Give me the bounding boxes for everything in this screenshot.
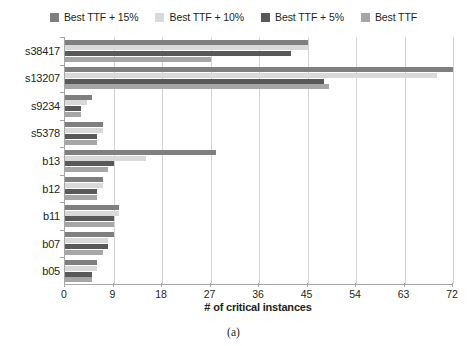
bar [65,128,103,133]
legend-label: Best TTF + 15% [64,12,139,23]
bar [65,238,108,243]
bar [65,189,97,194]
legend-swatch-icon [261,13,270,22]
y-axis-label-b07: b07 [0,238,60,250]
bar-group-s9234 [65,92,452,120]
bar-group-b12 [65,175,452,203]
bar [65,277,92,282]
gridline [453,37,454,284]
x-axis-tick [113,283,114,287]
bar [65,205,119,210]
bar [65,100,87,105]
bar [65,161,114,166]
legend-label: Best TTF + 10% [169,12,244,23]
x-axis-label-0: 0 [61,288,67,300]
legend-entry-1: Best TTF + 10% [155,12,244,23]
x-axis-tick [210,283,211,287]
x-axis-label-63: 63 [398,288,410,300]
bar [65,45,308,50]
y-axis-label-b13: b13 [0,155,60,167]
legend-swatch-icon [361,13,370,22]
bar [65,79,324,84]
y-axis-label-s5378: s5378 [0,127,60,139]
bar [65,183,103,188]
x-axis-tick [307,283,308,287]
y-axis-label-s9234: s9234 [0,100,60,112]
bar [65,40,308,45]
legend-label: Best TTF + 5% [275,12,344,23]
bar [65,112,81,117]
x-axis-label-72: 72 [446,288,458,300]
bar [65,272,92,277]
bar [65,216,114,221]
x-axis-label-54: 54 [349,288,361,300]
bar [65,222,114,227]
x-axis-tick [161,283,162,287]
bar-group-b13 [65,147,452,175]
x-axis-tick [452,283,453,287]
bar [65,250,103,255]
bar [65,156,146,161]
y-axis-label-b11: b11 [0,210,60,222]
bar-group-b11 [65,202,452,230]
bar [65,106,81,111]
x-axis-tick [258,283,259,287]
bars-container [65,37,452,284]
bar-group-s38417 [65,37,452,65]
legend-entry-0: Best TTF + 15% [50,12,139,23]
bar [65,95,92,100]
plot-area [64,37,452,285]
figure-panel: Best TTF + 15%Best TTF + 10%Best TTF + 5… [0,0,467,346]
bar [65,177,103,182]
legend-swatch-icon [155,13,164,22]
bar [65,260,97,265]
bar [65,67,453,72]
bar [65,167,108,172]
x-axis-label-18: 18 [155,288,167,300]
y-axis-label-b05: b05 [0,265,60,277]
bar [65,134,97,139]
y-axis-label-s38417: s38417 [0,45,60,57]
bar [65,140,97,145]
x-axis-label-36: 36 [252,288,264,300]
bar [65,84,329,89]
legend-entry-3: Best TTF [361,12,417,23]
bar [65,51,291,56]
y-axis-labels: s38417s13207s9234s5378b13b12b11b07b05 [0,37,60,285]
bar-group-s5378 [65,120,452,148]
chart-legend: Best TTF + 15%Best TTF + 10%Best TTF + 5… [0,12,467,23]
bar-group-s13207 [65,65,452,93]
bar [65,150,216,155]
x-axis-tick [404,283,405,287]
x-axis-tick [64,283,65,287]
bar [65,195,97,200]
x-axis-label-27: 27 [204,288,216,300]
legend-label: Best TTF [375,12,417,23]
x-axis-label-9: 9 [110,288,116,300]
x-axis-title: # of critical instances [64,301,452,313]
y-axis-label-s13207: s13207 [0,72,60,84]
legend-swatch-icon [50,13,59,22]
bar [65,211,119,216]
y-axis-label-b12: b12 [0,183,60,195]
x-axis-labels: 0918273645546372 [0,288,467,302]
bar [65,244,108,249]
bar [65,232,114,237]
bar-group-b05 [65,257,452,285]
x-axis-label-45: 45 [301,288,313,300]
bar [65,122,103,127]
bar [65,73,437,78]
bar [65,266,97,271]
x-axis-tick [355,283,356,287]
bar [65,57,211,62]
figure-caption: (a) [0,326,467,338]
legend-entry-2: Best TTF + 5% [261,12,344,23]
bar-group-b07 [65,230,452,258]
